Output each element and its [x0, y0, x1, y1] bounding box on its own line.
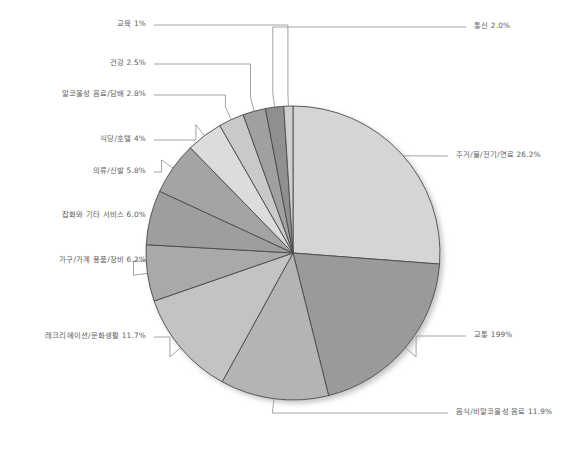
leader-line	[154, 64, 255, 115]
leader-line	[154, 125, 207, 140]
leader-line	[154, 25, 289, 110]
slice-label-restaurant-hotel: 식당/호텔 4%	[0, 135, 146, 142]
slice-label-recreation: 레크리에이션/문화생활 11.7%	[0, 332, 146, 339]
slice-label-transport: 교통 199%	[474, 331, 513, 338]
pie-slices-group	[146, 106, 440, 400]
slice-label-alcohol-tobacco: 알코올성 음료/담배 2.8%	[0, 90, 146, 97]
slice-label-education: 교육 1%	[0, 20, 146, 27]
slice-label-food: 음식/비알코올성 음료 11.9%	[456, 408, 552, 415]
pie-chart-svg	[0, 0, 577, 456]
slice-label-communication: 통신 2.0%	[474, 22, 510, 29]
slice-label-furniture: 가구/가계 용품/장비 6.2%	[0, 256, 146, 263]
slice-label-misc-services: 잡화와 기타 서비스 6.0%	[0, 211, 146, 218]
leader-line	[273, 27, 466, 111]
pie-slice[interactable]	[293, 106, 440, 264]
leader-line	[154, 95, 233, 123]
slice-label-health: 건강 2.5%	[0, 59, 146, 66]
pie-chart-figure: 주거/물/전기/연료 26.2%교통 199%음식/비알코올성 음료 11.9%…	[0, 0, 577, 456]
slice-label-housing: 주거/물/전기/연료 26.2%	[456, 151, 541, 158]
slice-label-clothing: 의류/신발 5.8%	[0, 167, 146, 174]
